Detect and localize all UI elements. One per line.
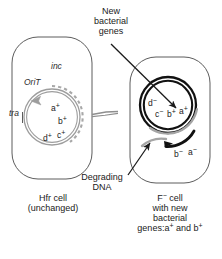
left-gene-a: a+ xyxy=(51,104,60,114)
left-gene-a-charge: + xyxy=(56,102,60,109)
fragment-gene-b: b− xyxy=(174,150,183,160)
figure-canvas: New bacterial genes inc OriT tra a+ b+ c… xyxy=(0,0,222,259)
left-gene-c-charge: + xyxy=(61,129,65,136)
fragment-gene-a: a− xyxy=(188,148,197,158)
left-gene-d: d+ xyxy=(43,134,52,144)
caption-f-minus-cell: F− cell with new bacterial genes:a+ and … xyxy=(124,193,216,233)
label-orit: OriT xyxy=(24,78,41,88)
left-gene-b: b+ xyxy=(58,117,67,127)
left-gene-c: c+ xyxy=(57,131,65,141)
right-gene-b: b+ xyxy=(167,110,176,120)
right-cell-outline xyxy=(130,57,210,183)
label-tra: tra xyxy=(9,109,19,119)
right-gene-a-charge: + xyxy=(184,105,188,112)
right-gene-c-charge: − xyxy=(159,108,163,115)
left-gene-d-charge: + xyxy=(48,132,52,139)
callout-degrading-dna: Degrading DNA xyxy=(66,172,138,192)
left-gene-b-charge: + xyxy=(63,115,67,122)
right-gene-d-charge: − xyxy=(153,97,157,104)
conjugation-bridge-icon xyxy=(92,112,118,117)
right-gene-b-charge: + xyxy=(172,108,176,115)
label-inc: inc xyxy=(51,62,62,72)
caption-f-genes-mid: and b xyxy=(174,223,199,233)
fragment-gene-b-charge: − xyxy=(179,148,183,155)
right-gene-d: d− xyxy=(148,99,157,109)
caption-f-genes-b-charge: + xyxy=(199,223,203,230)
fragment-gene-a-charge: − xyxy=(193,146,197,153)
right-gene-c: c− xyxy=(155,110,163,120)
caption-hfr-cell: Hfr cell (unchanged) xyxy=(6,193,100,213)
right-gene-a: a+ xyxy=(179,107,188,117)
callout-new-bacterial-genes: New bacterial genes xyxy=(72,6,150,36)
